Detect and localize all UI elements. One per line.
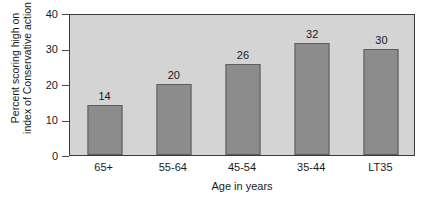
bar (295, 43, 330, 155)
bar-group: 20 (139, 15, 208, 155)
bar-value-label: 30 (375, 35, 387, 46)
bar (225, 64, 260, 155)
bar-value-label: 20 (168, 70, 180, 81)
y-axis-tick-label: 20 (34, 80, 58, 91)
bar-group: 30 (347, 15, 416, 155)
bar-chart: Percent scoring high on index of Conserv… (0, 0, 427, 200)
bar-group: 26 (208, 15, 277, 155)
bars-layer: 1420263230 (70, 15, 414, 155)
x-axis-tick-labels: 65+55-6445-5435-44LT35 (69, 161, 415, 175)
y-axis-tick-label: 30 (34, 44, 58, 55)
bar-group: 32 (278, 15, 347, 155)
bar (364, 49, 399, 156)
y-axis-tick-mark (62, 156, 69, 157)
bar-value-label: 14 (98, 91, 110, 102)
x-axis-title: Age in years (69, 180, 415, 192)
bar (87, 105, 122, 155)
y-axis-tick-label: 10 (34, 115, 58, 126)
bar-value-label: 32 (306, 29, 318, 40)
y-axis-tick-mark (62, 121, 69, 122)
x-axis-tick-label: 45-54 (228, 161, 256, 173)
y-axis-title-line-1: Percent scoring high on (9, 13, 22, 123)
bar-value-label: 26 (237, 50, 249, 61)
bar-group: 14 (70, 15, 139, 155)
y-axis-title: Percent scoring high on index of Conserv… (6, 0, 36, 143)
y-axis-tick-labels: 010203040 (34, 0, 58, 200)
y-axis-tick-label: 40 (34, 9, 58, 20)
plot-area: 1420263230 (69, 14, 415, 156)
y-axis-tick-mark (62, 50, 69, 51)
y-axis-title-line-2: index of Conservative action (21, 2, 34, 134)
y-axis-tick-mark (62, 85, 69, 86)
x-axis-tick-label: 65+ (94, 161, 113, 173)
x-axis-tick-label: 55-64 (159, 161, 187, 173)
x-axis-tick-label: LT35 (368, 161, 392, 173)
bar (156, 84, 191, 155)
y-axis-tick-marks (62, 0, 69, 200)
x-axis-tick-label: 35-44 (297, 161, 325, 173)
y-axis-tick-label: 0 (34, 151, 58, 162)
y-axis-tick-mark (62, 14, 69, 15)
